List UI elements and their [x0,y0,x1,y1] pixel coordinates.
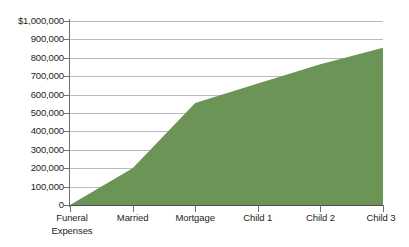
y-axis-tick-label: 300,000 [0,145,64,155]
x-axis-tick-mark [320,205,321,212]
x-axis-category-label: Child 2 [306,212,335,225]
y-axis-tick-label: 900,000 [0,34,64,44]
x-axis-category-label: Child 3 [367,212,396,225]
y-axis-tick-label: 0 [0,200,64,210]
x-axis-category-label-line: Child 3 [367,212,396,223]
x-axis-category-label-line: Funeral [56,212,88,223]
y-axis-tick-label: 100,000 [0,182,64,192]
y-axis-tick-label: 500,000 [0,108,64,118]
x-axis-labels: FuneralExpensesMarriedMortgageChild 1Chi… [0,212,409,247]
plot-area [70,21,383,205]
x-axis-category-label-line: Child 1 [243,212,272,223]
area-series-shape [70,21,383,205]
x-axis-tick-mark [70,205,71,212]
x-axis-tick-mark [195,205,196,212]
x-axis-category-label-line: Child 2 [306,212,335,223]
y-axis-labels: 0100,000200,000300,000400,000500,000600,… [0,0,64,247]
x-axis-category-label: Married [117,212,149,225]
y-axis-tick-label: 800,000 [0,53,64,63]
x-axis-category-label: Mortgage [176,212,215,225]
x-axis-line [69,205,384,206]
y-axis-tick-label: 200,000 [0,163,64,173]
x-axis-category-label: FuneralExpenses [52,212,93,237]
x-axis-category-label-line: Mortgage [176,212,215,223]
y-axis-tick-label: 600,000 [0,90,64,100]
x-axis-tick-mark [383,205,384,212]
y-axis-line [69,19,70,207]
x-axis-category-label-line: Married [117,212,149,223]
x-axis-tick-mark [258,205,259,212]
y-axis-tick-label: 400,000 [0,126,64,136]
y-axis-tick-label: 700,000 [0,71,64,81]
x-axis-category-label-line: Expenses [52,225,93,238]
y-axis-tick-label: $1,000,000 [0,16,64,26]
x-axis-category-label: Child 1 [243,212,272,225]
area-chart: 0100,000200,000300,000400,000500,000600,… [0,0,409,247]
x-axis-tick-mark [133,205,134,212]
